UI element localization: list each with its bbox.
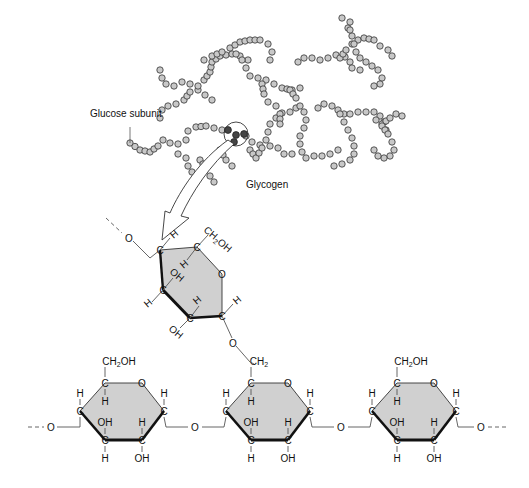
svg-text:C: C: [218, 311, 225, 322]
svg-text:O: O: [138, 378, 146, 389]
svg-text:O: O: [229, 338, 237, 349]
svg-text:C: C: [247, 435, 254, 446]
svg-text:C: C: [306, 406, 313, 417]
svg-text:H: H: [306, 388, 313, 399]
glycogen-label: Glycogen: [246, 179, 288, 190]
svg-text:CH2OH: CH2OH: [201, 224, 234, 255]
svg-text:CH2: CH2: [250, 356, 268, 368]
svg-text:OH: OH: [281, 453, 296, 464]
svg-text:O: O: [218, 269, 226, 280]
svg-text:OH: OH: [98, 417, 113, 428]
glucose-subunit-label: Glucose subunit: [90, 108, 162, 119]
svg-text:O: O: [477, 422, 485, 433]
svg-text:H: H: [393, 453, 400, 464]
svg-text:H: H: [247, 396, 254, 407]
svg-text:O: O: [430, 378, 438, 389]
svg-text:H: H: [452, 388, 459, 399]
svg-text:O: O: [125, 233, 133, 244]
svg-text:C: C: [156, 245, 163, 256]
svg-text:H: H: [76, 388, 83, 399]
svg-text:C: C: [222, 406, 229, 417]
svg-text:H: H: [247, 453, 254, 464]
svg-text:H: H: [101, 453, 108, 464]
svg-text:C: C: [284, 435, 291, 446]
svg-text:OH: OH: [135, 453, 150, 464]
svg-text:H: H: [393, 396, 400, 407]
svg-text:C: C: [368, 406, 375, 417]
svg-text:C: C: [193, 242, 200, 253]
svg-text:H: H: [138, 417, 145, 428]
svg-text:C: C: [186, 313, 193, 324]
svg-text:OH: OH: [427, 453, 442, 464]
svg-text:C: C: [247, 378, 254, 389]
svg-text:OH: OH: [244, 417, 259, 428]
svg-text:C: C: [159, 285, 166, 296]
svg-text:H: H: [101, 396, 108, 407]
svg-text:C: C: [101, 435, 108, 446]
svg-text:H: H: [284, 417, 291, 428]
glycogen-diagram: Glucose subunit Glycogen O C H C CH2OH H…: [0, 0, 529, 488]
svg-text:C: C: [393, 435, 400, 446]
svg-text:O: O: [191, 422, 199, 433]
svg-text:C: C: [452, 406, 459, 417]
svg-text:C: C: [76, 406, 83, 417]
svg-text:H: H: [430, 417, 437, 428]
svg-text:H: H: [142, 296, 155, 309]
svg-text:CH2OH: CH2OH: [394, 356, 427, 368]
svg-text:O: O: [47, 422, 55, 433]
svg-text:C: C: [160, 406, 167, 417]
svg-text:H: H: [160, 388, 167, 399]
branch-glucose-ring: O C H C CH2OH H O OH C H H C OH H C O: [106, 218, 250, 362]
svg-text:CH2OH: CH2OH: [102, 356, 135, 368]
svg-text:O: O: [284, 378, 292, 389]
glycogen-polymer: [127, 15, 405, 185]
svg-text:C: C: [430, 435, 437, 446]
svg-text:C: C: [101, 378, 108, 389]
svg-text:OH: OH: [390, 417, 405, 428]
svg-text:H: H: [222, 388, 229, 399]
svg-text:O: O: [337, 422, 345, 433]
svg-text:H: H: [368, 388, 375, 399]
svg-text:C: C: [393, 378, 400, 389]
svg-text:C: C: [138, 435, 145, 446]
linear-glucose-chain: CHCHOCHCHOHCOHHCH2OHCHCHOCHCHOHCOHHCH2CH…: [28, 356, 506, 464]
